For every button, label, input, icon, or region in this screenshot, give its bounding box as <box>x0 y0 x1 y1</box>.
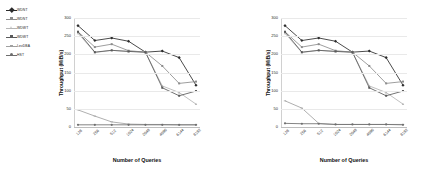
legend-item-label: LevDBA <box>17 44 30 48</box>
series-data-point <box>128 50 130 52</box>
series-line <box>285 101 403 125</box>
series-data-point <box>178 82 180 84</box>
series-data-point <box>385 123 387 125</box>
legend-item: HST <box>6 51 52 59</box>
legend-marker-diamond-icon <box>6 6 17 14</box>
series-data-point <box>351 51 353 53</box>
y-axis-tick-label: 150 <box>64 71 71 75</box>
series-data-point <box>368 65 370 67</box>
series-data-point <box>368 87 370 89</box>
gridline <box>281 54 407 55</box>
legend-item: WDWT <box>6 33 52 41</box>
gridline <box>74 109 200 110</box>
series-data-point <box>111 49 113 51</box>
legend-marker-square-icon <box>6 15 17 23</box>
series-data-point <box>284 31 286 33</box>
legend-item-label: WDNT <box>17 8 28 12</box>
series-line <box>285 32 403 96</box>
x-axis-tick-label: 6144 <box>176 128 185 137</box>
y-axis-tick-label: 0 <box>276 125 278 129</box>
series-data-point <box>94 46 96 48</box>
gridline <box>281 109 407 110</box>
chart-panel-right: Throughput (MiB/s) Number of Queries 050… <box>215 0 430 176</box>
x-axis-tick-label: 2048 <box>142 128 151 137</box>
legend-marker-circle-icon <box>6 51 17 59</box>
x-axis-tick-label: 4096 <box>159 128 168 137</box>
legend-item-label: WDNT <box>17 17 28 21</box>
chart-legend: WDNTWDNTWDWTWDWTLevDBAHST <box>6 6 52 60</box>
series-data-point <box>318 123 320 125</box>
series-data-point <box>301 123 303 125</box>
gridline <box>74 36 200 37</box>
x-axis-tick-label: 256 <box>92 128 100 135</box>
x-axis-tick-label: 1024 <box>125 128 134 137</box>
x-axis-tick-label: 2048 <box>349 128 358 137</box>
gridline <box>74 91 200 92</box>
x-axis-tick-label: 4096 <box>366 128 375 137</box>
y-axis-tick-label: 100 <box>64 89 71 93</box>
series-data-point <box>161 65 163 67</box>
series-data-point <box>77 31 79 33</box>
plot-area-left: 0501001502002503001282565121024204840966… <box>74 18 200 127</box>
gridline <box>281 73 407 74</box>
series-data-point <box>368 123 370 125</box>
y-axis-tick-label: 150 <box>271 71 278 75</box>
y-axis-tick-label: 50 <box>274 107 278 111</box>
x-axis-tick-label: 128 <box>76 128 84 135</box>
plot-area-right: 0501001502002503001282565121024204840966… <box>281 18 407 127</box>
y-axis-tick-label: 200 <box>271 52 278 56</box>
series-data-point <box>318 43 320 45</box>
series-data-point <box>178 95 180 97</box>
x-axis-tick-label: 128 <box>283 128 291 135</box>
series-data-point <box>94 124 96 126</box>
legend-item: WDWT <box>6 24 52 32</box>
legend-marker-square-icon <box>6 33 17 41</box>
series-line <box>285 26 403 86</box>
y-axis-tick-label: 300 <box>64 16 71 20</box>
series-data-point <box>402 81 404 83</box>
x-axis-tick-label: 256 <box>299 128 307 135</box>
x-axis-title-right: Number of Queries <box>281 157 407 163</box>
legend-marker-cross-icon <box>6 42 17 50</box>
gridline <box>74 73 200 74</box>
series-data-point <box>284 122 286 124</box>
series-data-point <box>301 46 303 48</box>
gridline <box>74 18 200 19</box>
gridline <box>281 91 407 92</box>
series-data-point <box>195 81 197 83</box>
legend-item: WDNT <box>6 6 52 14</box>
series-data-point <box>111 43 113 45</box>
gridline <box>74 54 200 55</box>
legend-item: WDNT <box>6 15 52 23</box>
chart-panel-left: WDNTWDNTWDWTWDWTLevDBAHST Throughput (Mi… <box>0 0 215 176</box>
series-data-point <box>144 51 146 53</box>
y-axis-tick-label: 300 <box>271 16 278 20</box>
legend-marker-triangle-icon <box>6 24 17 32</box>
y-axis-tick-label: 100 <box>271 89 278 93</box>
x-axis-tick-label: 8192 <box>400 128 409 137</box>
legend-item: LevDBA <box>6 42 52 50</box>
x-axis-tick-label: 512 <box>109 128 117 135</box>
series-data-point <box>335 50 337 52</box>
series-data-point <box>161 124 163 126</box>
series-data-point <box>351 123 353 125</box>
series-data-point <box>144 124 146 126</box>
series-data-point <box>127 124 129 126</box>
x-axis-title-left: Number of Queries <box>74 157 200 163</box>
x-axis-tick-label: 6144 <box>383 128 392 137</box>
series-data-point <box>385 82 387 84</box>
y-axis-tick-label: 200 <box>64 52 71 56</box>
series-data-point <box>402 124 404 126</box>
legend-item-label: HST <box>17 53 24 57</box>
y-axis-tick-label: 250 <box>64 34 71 38</box>
series-data-point <box>111 124 113 126</box>
legend-item-label: WDWT <box>17 35 28 39</box>
x-axis-tick-label: 8192 <box>193 128 202 137</box>
y-axis-tick-label: 250 <box>271 34 278 38</box>
y-axis-tick-label: 0 <box>69 125 71 129</box>
y-axis-tick-label: 50 <box>67 107 71 111</box>
series-data-point <box>368 50 371 53</box>
figure-container: WDNTWDNTWDWTWDWTLevDBAHST Throughput (Mi… <box>0 0 430 176</box>
series-data-point <box>178 124 180 126</box>
legend-item-label: WDWT <box>17 26 28 30</box>
